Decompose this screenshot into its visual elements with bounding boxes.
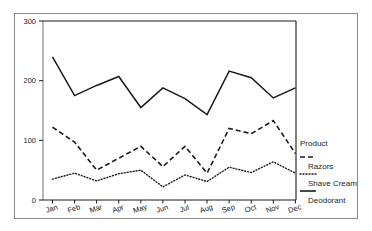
x-tick-label-apr: Apr (111, 202, 125, 214)
x-tick-label-mar: Mar (88, 202, 104, 215)
x-tick-label-dec: Dec (287, 202, 303, 215)
x-tick-label-oct: Oct (243, 202, 258, 214)
series-line-deodorant (53, 57, 296, 115)
legend-label-deodorant: Deodorant (308, 196, 346, 205)
series-line-razors (53, 121, 296, 174)
y-axis-tick-labels: 300 200 100 0 (23, 17, 36, 205)
y-tick-label-0: 0 (32, 196, 36, 205)
y-tick-label-100: 100 (23, 136, 36, 145)
legend-label-razors: Razors (308, 162, 333, 171)
y-tick-label-300: 300 (23, 17, 36, 26)
x-tick-label-sep: Sep (221, 202, 236, 215)
chart-legend: Product Razors Shave Cream Deodorant (300, 139, 357, 205)
y-tick-label-200: 200 (23, 76, 36, 85)
x-tick-label-feb: Feb (66, 202, 81, 215)
x-tick-label-jun: Jun (155, 202, 169, 214)
line-chart: 300 200 100 0 Jan Feb Mar Apr May J (0, 0, 372, 231)
x-tick-label-jan: Jan (45, 202, 59, 214)
legend-label-shave-cream: Shave Cream (308, 179, 357, 188)
x-axis-tick-labels: Jan Feb Mar Apr May Jun Jul Aug Sep Oct … (45, 202, 303, 215)
x-tick-label-nov: Nov (265, 202, 281, 215)
legend-title: Product (300, 139, 328, 148)
y-axis-ticks (39, 21, 43, 200)
x-tick-label-aug: Aug (198, 202, 213, 215)
series-line-shave-cream (53, 162, 296, 187)
chart-figure: 300 200 100 0 Jan Feb Mar Apr May J (0, 0, 372, 231)
x-tick-label-may: May (132, 202, 148, 215)
x-tick-label-jul: Jul (178, 203, 190, 215)
plot-axes (43, 21, 296, 200)
